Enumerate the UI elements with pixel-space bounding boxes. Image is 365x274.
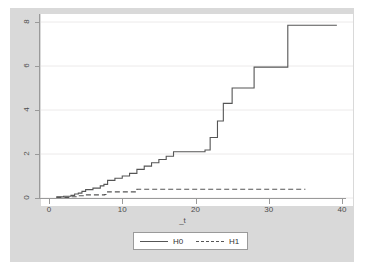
y-tick-mark	[35, 110, 40, 111]
legend-swatch-dashed	[196, 237, 224, 245]
legend-swatch-solid	[140, 237, 168, 245]
y-tick-label: 6	[22, 59, 31, 73]
x-tick-label: 40	[332, 205, 352, 214]
x-axis-title: _t	[0, 216, 365, 225]
y-tick-label: 4	[22, 103, 31, 117]
y-tick-mark	[35, 198, 40, 199]
y-tick-mark	[35, 154, 40, 155]
legend-label-h1: H1	[229, 237, 239, 246]
series-line-h0	[56, 25, 337, 197]
y-tick-mark	[35, 66, 40, 67]
chart-legend: H0 H1	[133, 232, 248, 250]
x-tick-label: 10	[112, 205, 132, 214]
x-tick-label: 20	[186, 205, 206, 214]
legend-entry-h0: H0	[140, 233, 183, 249]
y-tick-label: 2	[22, 147, 31, 161]
series-line-h1	[56, 189, 305, 197]
x-tick-label: 0	[39, 205, 59, 214]
x-tick-label: 30	[259, 205, 279, 214]
y-tick-label: 0	[22, 191, 31, 205]
x-tick-mark	[196, 199, 197, 204]
gridlines	[41, 22, 353, 198]
x-tick-mark	[49, 199, 50, 204]
x-axis-line	[39, 198, 346, 199]
plot-canvas	[41, 14, 353, 206]
legend-label-h0: H0	[173, 237, 183, 246]
plot-area	[41, 14, 353, 206]
x-tick-mark	[269, 199, 270, 204]
y-tick-mark	[35, 22, 40, 23]
x-tick-mark	[342, 199, 343, 204]
x-tick-mark	[122, 199, 123, 204]
y-tick-label: 8	[22, 15, 31, 29]
series-lines	[56, 25, 337, 197]
legend-entry-h1: H1	[196, 233, 239, 249]
y-axis-line	[39, 14, 40, 199]
